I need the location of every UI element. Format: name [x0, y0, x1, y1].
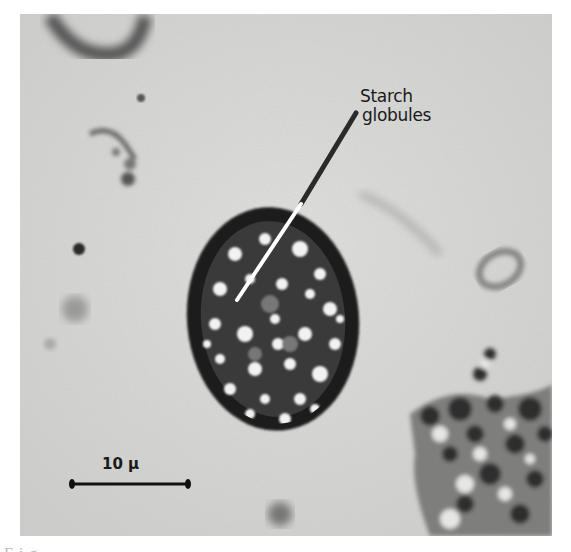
annotation-label-starch: Starch [360, 86, 413, 106]
scale-bar-label: 10 μ [102, 455, 139, 473]
micrograph-photo [20, 14, 552, 536]
figure: Starch globules 10 μ Fig. ... [0, 0, 571, 552]
micrograph-image [20, 14, 552, 536]
figure-caption-cropped: Fig. ... [0, 545, 571, 552]
annotation-label-globules: globules [362, 105, 431, 125]
